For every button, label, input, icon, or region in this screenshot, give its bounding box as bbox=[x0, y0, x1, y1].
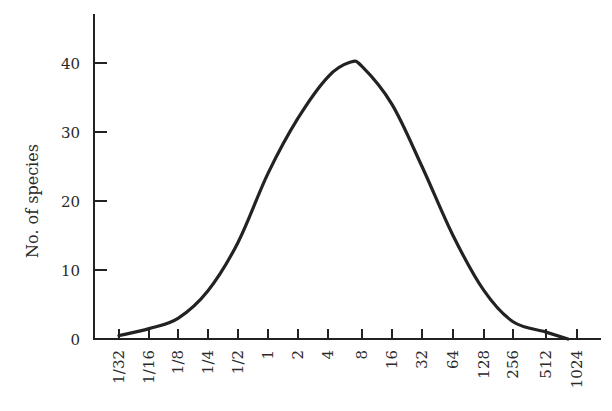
x-tick-label: 8 bbox=[353, 350, 371, 360]
species-curve-chart: 010203040 1/321/161/81/41/21248163264128… bbox=[0, 0, 612, 411]
x-tick-label: 2 bbox=[289, 350, 307, 360]
x-tick-label: 1024 bbox=[568, 350, 586, 388]
x-tick-label: 1/2 bbox=[229, 350, 247, 374]
x-ticks: 1/321/161/81/41/212481632641282565121024 bbox=[110, 329, 586, 388]
x-tick-label: 1/8 bbox=[169, 350, 187, 374]
y-tick-label: 40 bbox=[61, 55, 80, 73]
y-tick-label: 0 bbox=[70, 331, 80, 349]
x-tick-label: 1/16 bbox=[140, 350, 158, 384]
y-axis-title: No. of species bbox=[23, 144, 42, 258]
x-tick-label: 1/32 bbox=[110, 350, 128, 384]
y-ticks: 010203040 bbox=[61, 55, 107, 349]
x-tick-label: 128 bbox=[475, 350, 493, 379]
x-tick-label: 32 bbox=[413, 350, 431, 369]
y-tick-label: 10 bbox=[61, 262, 80, 280]
x-tick-label: 64 bbox=[444, 350, 462, 369]
x-tick-label: 256 bbox=[504, 350, 522, 379]
x-tick-label: 1/4 bbox=[199, 350, 217, 374]
x-tick-label: 1 bbox=[259, 350, 277, 360]
x-tick-label: 4 bbox=[319, 350, 337, 360]
y-tick-label: 20 bbox=[61, 193, 80, 211]
x-tick-label: 512 bbox=[537, 350, 555, 379]
y-tick-label: 30 bbox=[61, 124, 80, 142]
distribution-curve bbox=[119, 61, 568, 339]
x-tick-label: 16 bbox=[383, 350, 401, 369]
